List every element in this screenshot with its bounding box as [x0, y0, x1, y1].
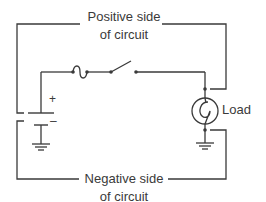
- lamp-icon: [192, 98, 218, 124]
- negative-side-label: Negative side of circuit: [80, 171, 168, 202]
- junction-dots: [71, 70, 207, 132]
- plus-sign: +: [49, 92, 56, 107]
- switch-open-icon: [111, 61, 131, 72]
- battery-icon: [28, 72, 54, 144]
- positive-side-label-line2: of circuit: [84, 27, 164, 42]
- positive-side-label: Positive side of circuit: [84, 9, 164, 42]
- ground-icon: [32, 144, 50, 150]
- negative-side-label-line2: of circuit: [80, 189, 168, 202]
- negative-side-label-line1: Negative side: [80, 171, 168, 186]
- ground-icon: [196, 143, 214, 149]
- minus-sign: –: [50, 114, 57, 129]
- load-label: Load: [222, 102, 251, 117]
- fuse-icon: [73, 66, 87, 78]
- positive-side-label-line1: Positive side: [84, 9, 164, 24]
